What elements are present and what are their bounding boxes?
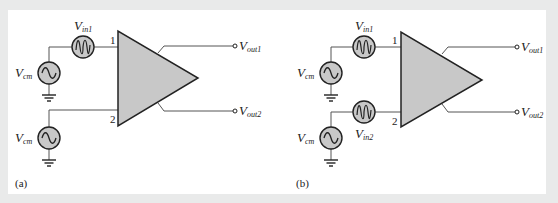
amplifier-triangle — [401, 32, 482, 127]
vcm-label: Vcm — [297, 130, 315, 146]
vcm-source-icon — [320, 62, 342, 84]
ground-icon — [42, 160, 56, 166]
wire — [331, 112, 353, 127]
vcm-source-icon — [320, 127, 342, 149]
vin2-source-icon — [353, 101, 375, 123]
output-terminal — [515, 45, 519, 49]
ground-icon — [324, 95, 338, 101]
pin-1-label: 1 — [110, 34, 116, 46]
vout1-label: Vout1 — [239, 38, 261, 54]
circuit-diagram: Vin1 Vcm Vcm 1 2 Vout1 Vout2 (a) Vin1 Vc — [0, 0, 558, 203]
pin-2-label: 2 — [110, 113, 116, 125]
vcm-source-icon — [38, 127, 60, 149]
wire-out2 — [442, 104, 515, 112]
panel-a: Vin1 Vcm Vcm 1 2 Vout1 Vout2 (a) — [15, 18, 261, 190]
panel-b: Vin1 Vcm Vin2 Vcm 1 2 Vout1 Vout2 (b) — [296, 18, 543, 190]
vin1-source-icon — [72, 36, 94, 58]
wire — [331, 47, 353, 62]
pin-2-label: 2 — [392, 115, 398, 127]
wire-out1 — [442, 47, 515, 54]
vout1-label: Vout1 — [521, 39, 543, 55]
vcm-label: Vcm — [297, 65, 315, 81]
output-terminal — [233, 44, 237, 48]
wire-out1 — [158, 46, 233, 53]
ground-icon — [324, 160, 338, 166]
caption-b: (b) — [296, 177, 309, 190]
pin-1-label: 1 — [392, 34, 398, 46]
vin2-label: Vin2 — [355, 126, 373, 142]
vout2-label: Vout2 — [239, 103, 261, 119]
ground-icon — [42, 95, 56, 101]
vcm-source-icon — [38, 62, 60, 84]
caption-a: (a) — [15, 177, 28, 190]
vout2-label: Vout2 — [521, 104, 543, 120]
amplifier-triangle — [118, 31, 198, 126]
output-terminal — [515, 110, 519, 114]
vcm-label: Vcm — [15, 65, 33, 81]
wire — [49, 110, 118, 127]
wire-out2 — [158, 103, 233, 111]
output-terminal — [233, 109, 237, 113]
vcm-label: Vcm — [15, 130, 33, 146]
wire — [49, 47, 72, 62]
vin1-label: Vin1 — [74, 18, 92, 34]
vin1-label: Vin1 — [355, 18, 373, 34]
vin1-source-icon — [353, 36, 375, 58]
